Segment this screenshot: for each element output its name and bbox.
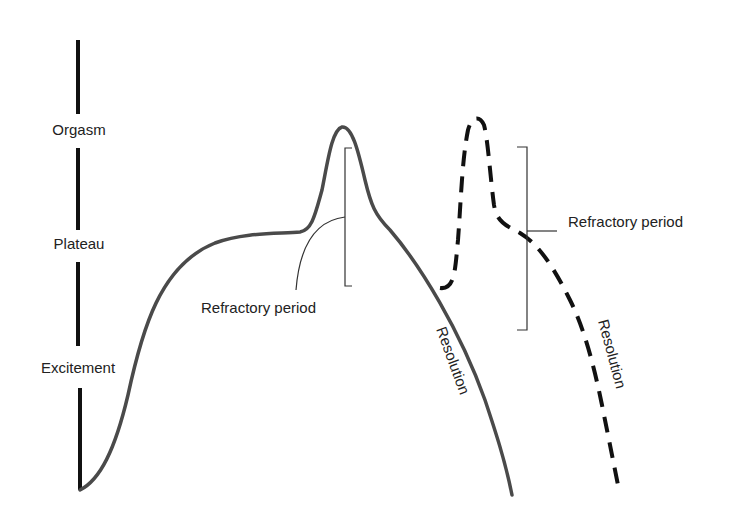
refractory-bracket-2 bbox=[517, 147, 557, 330]
refractory-bracket-1 bbox=[345, 148, 352, 286]
refractory-period-label-1: Refractory period bbox=[201, 299, 316, 316]
secondary-response-curve bbox=[440, 118, 618, 485]
resolution-label-2: Resolution bbox=[595, 317, 630, 390]
refractory-period-label-2: Refractory period bbox=[568, 213, 683, 230]
phase-axis bbox=[78, 40, 80, 490]
label-orgasm: Orgasm bbox=[52, 121, 105, 138]
response-cycle-diagram: Orgasm Plateau Excitement Refractory per… bbox=[0, 0, 745, 522]
label-plateau: Plateau bbox=[54, 235, 105, 252]
label-excitement: Excitement bbox=[41, 359, 116, 376]
refractory-leader-1 bbox=[296, 217, 345, 290]
